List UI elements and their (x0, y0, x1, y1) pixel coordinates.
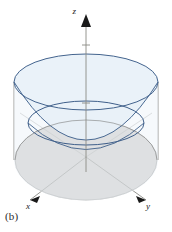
figure-container: z x y (b) (0, 0, 172, 232)
y-axis-label: y (145, 201, 150, 211)
z-axis-label: z (71, 6, 76, 16)
x-axis-arrow-icon (30, 196, 40, 203)
x-axis-label: x (25, 201, 30, 211)
z-axis-arrow-icon (81, 14, 91, 27)
y-axis-arrow-icon (136, 196, 146, 203)
three-d-plot: z x y (0, 0, 172, 232)
panel-label: (b) (5, 210, 18, 222)
